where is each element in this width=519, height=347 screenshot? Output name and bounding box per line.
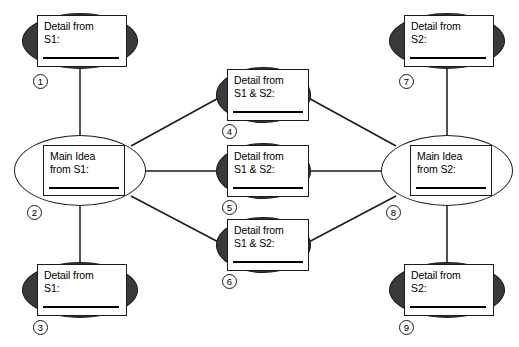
node-7-badge: 7: [399, 74, 414, 89]
node-1-card: Detail from S1:: [37, 15, 127, 67]
node-2[interactable]: Main Idea from S1:: [14, 135, 146, 206]
node-4[interactable]: Detail from S1 & S2:: [216, 67, 311, 123]
node-5-line1: Detail from: [234, 150, 303, 163]
node-6[interactable]: Detail from S1 & S2:: [216, 217, 311, 273]
node-2-badge: 2: [27, 205, 42, 220]
node-6-badge: 6: [222, 274, 237, 289]
node-5-card: Detail from S1 & S2:: [227, 145, 309, 197]
node-6-card: Detail from S1 & S2:: [227, 219, 309, 271]
node-2-line1: Main Idea: [50, 150, 119, 163]
node-2-writing-line: [49, 187, 119, 189]
node-9-line1: Detail from: [411, 269, 488, 282]
node-4-card: Detail from S1 & S2:: [227, 69, 309, 121]
node-3-writing-line: [43, 306, 119, 308]
node-1-writing-line: [43, 57, 119, 59]
node-3-badge: 3: [33, 320, 48, 335]
node-8-badge: 8: [386, 205, 401, 220]
node-1-line1: Detail from: [44, 20, 121, 33]
node-1-line2: S1:: [44, 33, 121, 46]
node-9[interactable]: Detail from S2:: [389, 262, 505, 318]
node-4-writing-line: [233, 111, 303, 113]
node-3-card: Detail from S1:: [37, 264, 127, 316]
node-5[interactable]: Detail from S1 & S2:: [216, 143, 311, 199]
node-3-line1: Detail from: [44, 269, 121, 282]
node-6-line2: S1 & S2:: [234, 237, 303, 250]
node-9-badge: 9: [399, 320, 414, 335]
node-8-writing-line: [416, 187, 486, 189]
node-7[interactable]: Detail from S2:: [389, 13, 505, 69]
node-5-writing-line: [233, 187, 303, 189]
node-8-line1: Main Idea: [417, 150, 486, 163]
node-7-line1: Detail from: [411, 20, 488, 33]
node-4-badge: 4: [222, 124, 237, 139]
node-4-line2: S1 & S2:: [234, 87, 303, 100]
node-1[interactable]: Detail from S1:: [22, 13, 138, 69]
graphic-organizer-diagram: Detail from S1: 1 Main Idea from S1: 2 D…: [0, 0, 519, 347]
node-5-badge: 5: [222, 200, 237, 215]
node-7-writing-line: [410, 57, 486, 59]
node-8[interactable]: Main Idea from S2:: [381, 135, 513, 206]
node-7-card: Detail from S2:: [404, 15, 494, 67]
node-9-card: Detail from S2:: [404, 264, 494, 316]
node-5-line2: S1 & S2:: [234, 163, 303, 176]
node-6-writing-line: [233, 261, 303, 263]
node-2-line2: from S1:: [50, 163, 119, 176]
node-1-badge: 1: [33, 74, 48, 89]
node-9-line2: S2:: [411, 282, 488, 295]
node-6-line1: Detail from: [234, 224, 303, 237]
node-8-line2: from S2:: [417, 163, 486, 176]
node-4-line1: Detail from: [234, 74, 303, 87]
node-9-writing-line: [410, 306, 486, 308]
node-3-line2: S1:: [44, 282, 121, 295]
node-7-line2: S2:: [411, 33, 488, 46]
node-3[interactable]: Detail from S1:: [22, 262, 138, 318]
